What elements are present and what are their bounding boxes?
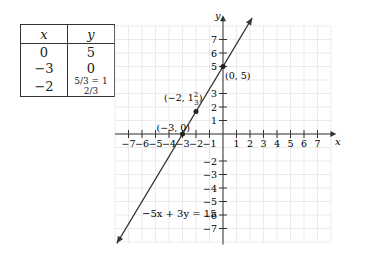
point-label-neg2: (−2, 123) — [164, 91, 202, 107]
y-tick-label: 1 — [211, 115, 217, 126]
data-point — [194, 109, 199, 114]
x-axis-label: x — [335, 136, 341, 147]
y-tick-label: 5 — [211, 61, 217, 72]
y-tick-label: 6 — [211, 48, 217, 59]
y-axis-label: y — [214, 10, 221, 21]
y-tick-label: 7 — [211, 34, 217, 45]
x-tick-label: 5 — [287, 138, 293, 149]
y-axis-arrow-icon — [220, 15, 226, 21]
equation-label: −5x + 3y = 15 — [142, 208, 217, 219]
point-label-0-5: (0, 5) — [225, 70, 251, 81]
y-tick-label: 3 — [211, 88, 217, 99]
x-tick-label: −2 — [189, 138, 203, 149]
x-tick-label: 6 — [301, 138, 307, 149]
line-graph: xy−7−6−5−4−3−2−11234567−7−6−5−4−3−212356… — [0, 0, 365, 254]
y-tick-label: 2 — [211, 102, 217, 113]
x-tick-label: 4 — [274, 138, 280, 149]
x-tick-label: −6 — [135, 138, 149, 149]
x-tick-label: −3 — [175, 138, 189, 149]
y-tick-label: −7 — [203, 223, 217, 234]
x-tick-label: −1 — [202, 138, 216, 149]
y-tick-label: −3 — [203, 169, 217, 180]
x-tick-label: 7 — [314, 138, 320, 149]
y-tick-label: −5 — [203, 196, 217, 207]
point-label-neg3-0: (−3, 0) — [157, 122, 191, 133]
x-tick-label: 1 — [233, 138, 239, 149]
y-tick-label: −2 — [203, 156, 217, 167]
y-tick-label: −4 — [203, 183, 217, 194]
x-tick-label: −7 — [121, 138, 135, 149]
x-tick-label: 3 — [260, 138, 266, 149]
line-arrow-up-icon — [246, 18, 252, 26]
x-tick-label: −5 — [148, 138, 162, 149]
x-tick-label: 2 — [247, 138, 253, 149]
data-point — [221, 64, 226, 69]
